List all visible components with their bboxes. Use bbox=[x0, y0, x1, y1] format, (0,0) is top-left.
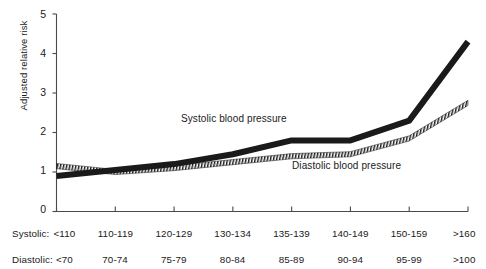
x-label-systolic-4: 135-139 bbox=[273, 228, 310, 239]
x-axis-row-systolic-prefix: Systolic: bbox=[12, 228, 49, 239]
x-label-systolic-3: 130-134 bbox=[214, 228, 251, 239]
x-label-diastolic-6: 95-99 bbox=[396, 254, 422, 265]
x-label-systolic-7: >160 bbox=[453, 228, 475, 239]
x-label-systolic-5: 140-149 bbox=[332, 228, 369, 239]
x-label-diastolic-0: <70 bbox=[56, 254, 73, 265]
x-label-diastolic-2: 75-79 bbox=[161, 254, 187, 265]
series-systolic-blood-pressure bbox=[57, 42, 469, 176]
x-label-systolic-2: 120-129 bbox=[156, 228, 193, 239]
chart-container: Adjusted relative risk 5 4 3 2 1 0 Systo… bbox=[0, 0, 486, 269]
x-label-systolic-1: 110-119 bbox=[98, 228, 133, 239]
x-label-systolic-0: <110 bbox=[54, 228, 76, 239]
series-diastolic-blood-pressure bbox=[57, 100, 469, 174]
series-label-systolic: Systolic blood pressure bbox=[181, 113, 287, 124]
y-tick-marks bbox=[53, 14, 57, 212]
x-label-diastolic-1: 70-74 bbox=[102, 254, 128, 265]
x-label-systolic-6: 150-159 bbox=[391, 228, 428, 239]
x-label-diastolic-5: 90-94 bbox=[337, 254, 363, 265]
x-label-diastolic-3: 80-84 bbox=[220, 254, 246, 265]
series-label-diastolic: Diastolic blood pressure bbox=[292, 160, 401, 171]
x-label-diastolic-4: 85-89 bbox=[279, 254, 305, 265]
x-label-diastolic-7: >100 bbox=[453, 254, 475, 265]
x-tick-marks bbox=[57, 207, 469, 212]
x-axis-row-diastolic-prefix: Diastolic: bbox=[12, 254, 53, 265]
